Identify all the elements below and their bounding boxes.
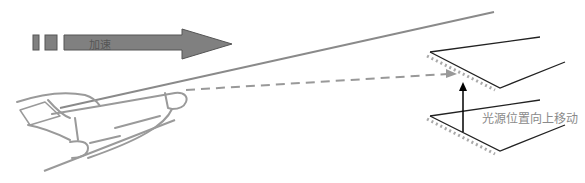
upper-surface <box>427 37 565 90</box>
diagram-canvas: 加速 光源位置向上移动 <box>0 0 585 183</box>
acceleration-label: 加速 <box>89 36 111 52</box>
motion-line <box>60 12 494 108</box>
up-arrow-icon <box>459 82 467 132</box>
light-source-shift-label: 光源位置向上移动 <box>482 109 578 126</box>
acceleration-arrow-icon <box>33 29 232 59</box>
